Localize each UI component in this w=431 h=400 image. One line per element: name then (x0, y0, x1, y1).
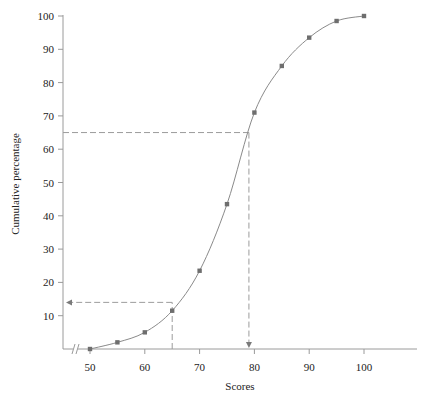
y-tick-label: 60 (43, 143, 55, 155)
x-tick-label: 100 (356, 361, 373, 373)
y-tick-label: 50 (43, 177, 55, 189)
data-point (334, 19, 338, 23)
y-tick-label: 100 (38, 10, 55, 22)
arrow-left-icon (66, 299, 72, 305)
x-tick-label: 80 (249, 361, 261, 373)
data-point (362, 14, 366, 18)
y-tick-label: 90 (43, 43, 55, 55)
x-axis: 5060708090100 (63, 344, 417, 373)
y-tick-label: 70 (43, 110, 55, 122)
y-tick-label: 80 (43, 77, 55, 89)
ogive-chart: 102030405060708090100 5060708090100 Scor… (0, 0, 431, 400)
data-point (252, 110, 256, 114)
axis-break-icon (72, 344, 79, 354)
y-tick-label: 40 (43, 210, 55, 222)
y-tick-label: 10 (43, 310, 55, 322)
data-point (197, 269, 201, 273)
data-point (225, 202, 229, 206)
ogive-line (90, 16, 364, 349)
x-tick-label: 60 (139, 361, 151, 373)
y-axis-label: Cumulative percentage (9, 133, 21, 235)
data-point (170, 309, 174, 313)
x-tick-label: 70 (194, 361, 206, 373)
y-axis: 102030405060708090100 (38, 10, 64, 349)
reading-guides (63, 133, 252, 349)
x-axis-label: Scores (225, 380, 254, 392)
x-tick-label: 50 (85, 361, 97, 373)
y-tick-label: 30 (43, 243, 55, 255)
data-point (88, 347, 92, 351)
x-tick-label: 90 (304, 361, 316, 373)
ogive-series (88, 14, 366, 351)
data-point (143, 330, 147, 334)
y-tick-label: 20 (43, 276, 55, 288)
data-point (115, 340, 119, 344)
data-point (280, 64, 284, 68)
arrow-down-icon (246, 342, 252, 348)
data-point (307, 35, 311, 39)
